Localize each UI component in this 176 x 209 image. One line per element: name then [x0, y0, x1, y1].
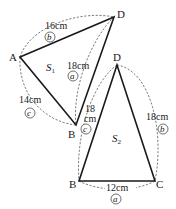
side-dc-mark: b	[160, 124, 165, 134]
side-db-mark: a	[70, 71, 75, 81]
vertex-b2-label: B	[69, 178, 76, 190]
side-db2-length-line2: cm	[84, 113, 96, 124]
triangle-figure: A D B S1 16cm b 18cm a 14cm c	[0, 0, 176, 209]
side-ab-mark: c	[27, 108, 31, 118]
side-db-length: 18cm	[67, 60, 89, 71]
side-bc-mark: a	[113, 194, 118, 204]
vertex-c-label: C	[156, 178, 163, 190]
side-bc-length: 12cm	[106, 182, 128, 193]
vertex-b1-label: B	[68, 128, 75, 140]
side-db2-mark: c	[83, 124, 87, 134]
area-s1-label: S1	[46, 61, 56, 75]
vertex-d1-label: D	[117, 8, 125, 20]
side-ab-length: 14cm	[19, 94, 41, 105]
triangle-s2: D B C S2 18 cm c 18cm b 12cm a	[69, 51, 168, 204]
area-s2-label: S2	[112, 132, 122, 146]
side-ad-length: 16cm	[45, 20, 67, 31]
vertex-d2-label: D	[113, 51, 121, 63]
side-ad-mark: b	[47, 32, 52, 42]
vertex-a-label: A	[9, 51, 17, 63]
side-dc-length: 18cm	[146, 111, 168, 122]
triangle-s1-edges	[20, 17, 114, 125]
